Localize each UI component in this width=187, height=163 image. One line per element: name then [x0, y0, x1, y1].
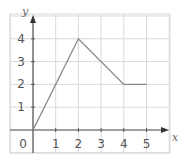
- y-tick-label: 2: [17, 77, 25, 91]
- x-tick-label: 5: [143, 137, 151, 151]
- grid: [10, 14, 170, 153]
- tick-labels: 123451234: [17, 32, 150, 151]
- x-tick-label: 2: [75, 137, 83, 151]
- y-axis-label: y: [21, 5, 29, 18]
- y-tick-label: 4: [17, 32, 25, 46]
- y-tick-label: 1: [17, 100, 25, 114]
- x-tick-label: 3: [97, 137, 105, 151]
- y-tick-label: 3: [17, 55, 25, 69]
- x-axis-label: x: [172, 131, 179, 144]
- line-chart: 123451234 x y 0: [0, 0, 187, 163]
- x-tick-label: 4: [120, 137, 128, 151]
- origin-label: 0: [19, 137, 27, 151]
- x-tick-label: 1: [52, 137, 60, 151]
